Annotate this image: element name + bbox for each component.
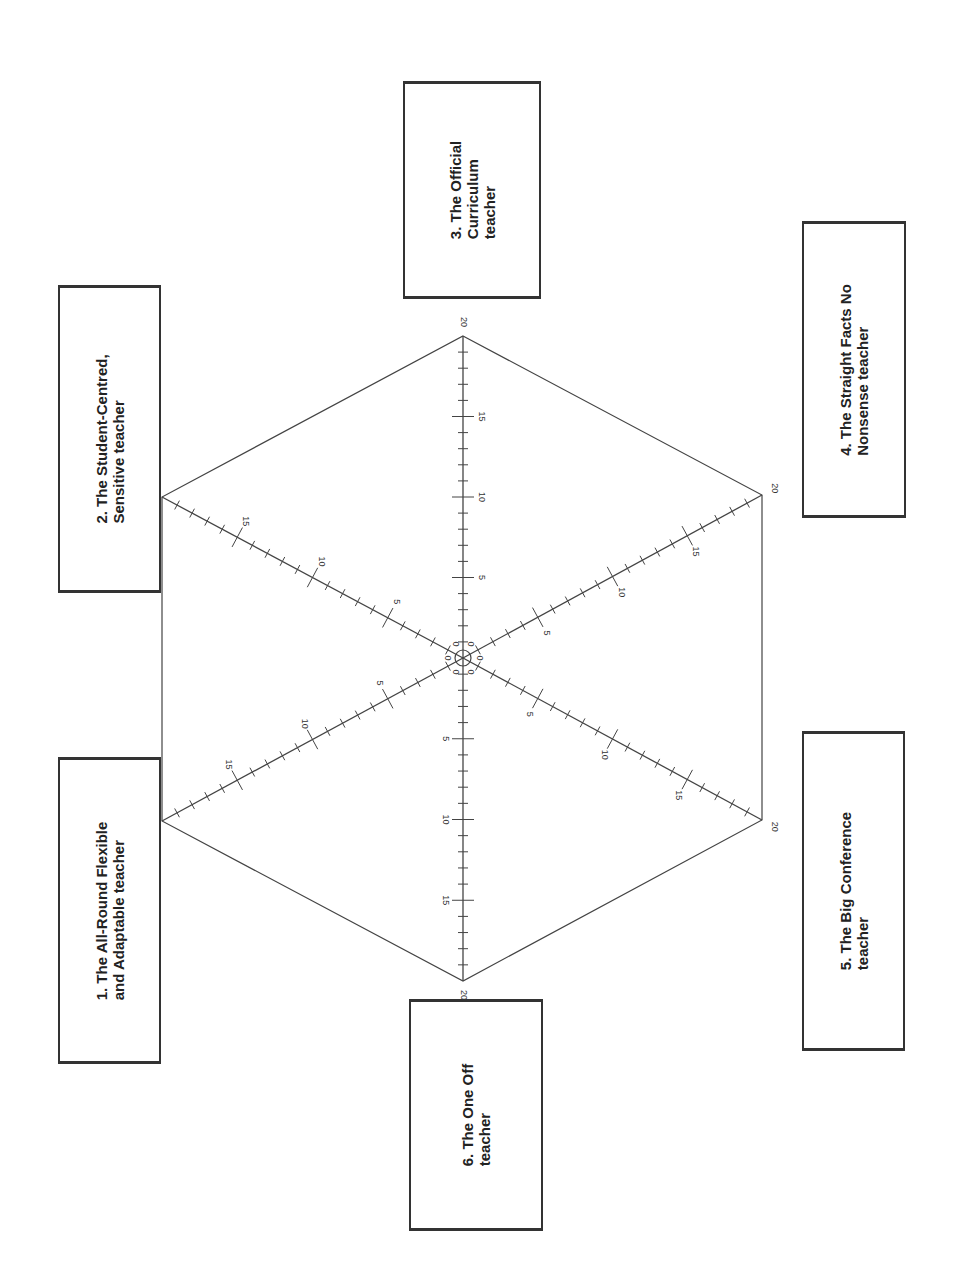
tick <box>431 637 436 646</box>
tick <box>520 686 525 695</box>
tick <box>431 670 436 679</box>
tick <box>190 509 195 518</box>
tick <box>383 689 393 708</box>
tick <box>550 605 555 614</box>
tick-label: 5 <box>441 736 451 741</box>
label-student-centred: 2. The Student-Centred, Sensitive teache… <box>93 354 127 523</box>
tick-label: 10 <box>300 719 310 729</box>
tick <box>383 608 393 627</box>
tick-label: 15 <box>674 790 684 800</box>
tick <box>295 565 300 574</box>
tick-label: 10 <box>441 814 451 824</box>
tick <box>491 637 496 646</box>
label-box-big-conference: 5. The Big Conference teacher <box>802 731 905 1051</box>
axes-group: 0510152005101520051015200510152005101520… <box>145 317 780 1000</box>
label-official-curriculum: 3. The Official Curriculum teacher <box>447 141 498 239</box>
tick <box>175 501 180 510</box>
tick <box>307 568 317 587</box>
tick <box>505 629 510 638</box>
tick <box>532 608 543 627</box>
tick-label: 20 <box>459 317 469 327</box>
tick-label: 15 <box>441 895 451 905</box>
tick <box>280 751 285 760</box>
label-box-student-centred: 2. The Student-Centred, Sensitive teache… <box>58 285 161 593</box>
tick <box>550 702 555 711</box>
tick-label: 5 <box>542 631 552 636</box>
tick <box>280 557 285 566</box>
tick-label: 10 <box>317 557 327 567</box>
tick <box>265 549 270 558</box>
tick <box>505 678 510 687</box>
tick <box>355 711 360 720</box>
tick <box>745 808 750 817</box>
tick-label: 20 <box>770 483 780 493</box>
tick <box>655 548 660 557</box>
tick <box>682 770 692 789</box>
tick-label: 10 <box>600 750 610 760</box>
tick <box>715 791 720 800</box>
tick <box>580 588 585 597</box>
tick <box>446 662 451 671</box>
tick <box>682 526 693 545</box>
tick-label: 10 <box>477 492 487 502</box>
tick <box>730 799 735 808</box>
tick-label: 5 <box>392 599 402 604</box>
tick <box>400 621 405 630</box>
tick-label: 10 <box>617 587 627 597</box>
tick <box>355 597 360 606</box>
tick <box>520 621 525 630</box>
axis-4: 05101520 <box>463 483 780 674</box>
tick <box>640 556 645 565</box>
tick <box>232 771 242 790</box>
tick <box>325 727 330 736</box>
tick <box>220 784 225 793</box>
tick <box>476 645 481 654</box>
tick <box>190 800 195 809</box>
tick <box>670 767 675 776</box>
tick <box>607 729 617 748</box>
axis-2: 05101520 <box>145 485 476 658</box>
label-big-conference: 5. The Big Conference teacher <box>837 812 871 970</box>
label-box-one-off: 6. The One Off teacher <box>409 999 543 1231</box>
label-box-official-curriculum: 3. The Official Curriculum teacher <box>403 81 541 299</box>
label-all-round-flexible: 1. The All-Round Flexible and Adaptable … <box>93 821 127 1000</box>
tick-label: 20 <box>770 822 780 832</box>
tick <box>700 523 705 532</box>
tick <box>565 710 570 719</box>
tick <box>565 597 570 606</box>
tick <box>220 525 225 534</box>
tick <box>625 564 630 573</box>
label-box-straight-facts: 4. The Straight Facts No Nonsense teache… <box>802 221 906 518</box>
tick <box>533 689 543 708</box>
tick <box>655 759 660 768</box>
tick <box>607 567 618 586</box>
axis-3: 05101520 <box>452 317 487 661</box>
tick <box>595 727 600 736</box>
tick-label: 15 <box>477 411 487 421</box>
tick <box>580 718 585 727</box>
tick <box>700 783 705 792</box>
tick-label: 5 <box>375 680 385 685</box>
tick <box>205 792 210 801</box>
tick <box>415 678 420 687</box>
label-straight-facts: 4. The Straight Facts No Nonsense teache… <box>837 284 871 456</box>
tick <box>340 719 345 728</box>
tick <box>370 605 375 614</box>
tick <box>265 760 270 769</box>
tick <box>491 670 496 679</box>
tick <box>325 581 330 590</box>
tick <box>295 743 300 752</box>
label-one-off: 6. The One Off teacher <box>459 1064 493 1167</box>
tick <box>670 540 675 549</box>
tick <box>745 499 750 508</box>
tick <box>370 703 375 712</box>
tick <box>232 528 242 547</box>
tick <box>205 517 210 526</box>
tick-label: 15 <box>691 547 701 557</box>
tick <box>250 768 255 777</box>
tick <box>476 662 481 671</box>
tick <box>340 589 345 598</box>
tick <box>175 808 180 817</box>
tick-label: 0 <box>443 655 453 660</box>
tick <box>730 507 735 516</box>
